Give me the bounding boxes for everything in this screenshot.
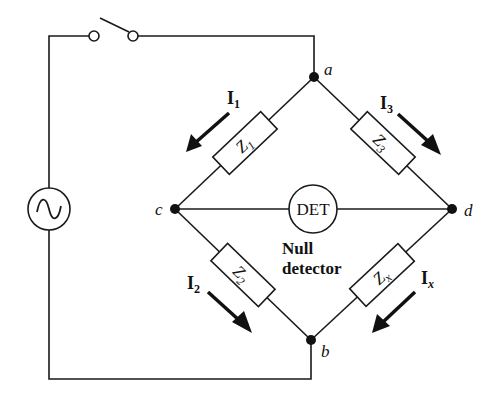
node-label-a: a	[324, 60, 333, 79]
node-b	[306, 335, 316, 345]
detector-label: DET	[296, 200, 330, 219]
node-c	[170, 204, 180, 214]
bridge-circuit-diagram: Z1 Z3 Z2 Zx DET Null detector a c d b	[0, 0, 492, 403]
impedance-z1: Z1	[213, 112, 278, 176]
impedance-z2: Z2	[210, 243, 275, 307]
wire-bottom-to-b	[49, 230, 311, 379]
switch-terminal-right	[128, 31, 138, 41]
wire-left-top	[49, 36, 89, 188]
node-d	[447, 204, 457, 214]
current-arrow-i2-icon	[208, 292, 252, 333]
current-arrow-i1-icon	[186, 113, 229, 152]
current-arrow-ix-icon	[372, 292, 415, 333]
switch[interactable]	[89, 18, 138, 41]
detector-caption-line2: detector	[282, 259, 342, 278]
node-label-b: b	[321, 342, 330, 361]
switch-blade	[100, 18, 129, 32]
current-label-ix: Ix	[421, 268, 434, 291]
detector-caption-line1: Null	[282, 239, 313, 258]
node-label-c: c	[155, 200, 163, 219]
ac-source-icon	[28, 188, 70, 230]
node-label-d: d	[464, 201, 473, 220]
switch-terminal-left	[89, 31, 99, 41]
current-label-i1: I1	[227, 88, 240, 111]
null-detector: DET Null detector	[282, 185, 342, 278]
impedance-zx: Zx	[350, 244, 415, 307]
current-label-i2: I2	[187, 273, 200, 296]
node-a	[309, 72, 319, 82]
wire-top-to-a	[138, 36, 314, 77]
outer-wiring	[49, 36, 314, 379]
current-label-i3: I3	[380, 93, 393, 116]
